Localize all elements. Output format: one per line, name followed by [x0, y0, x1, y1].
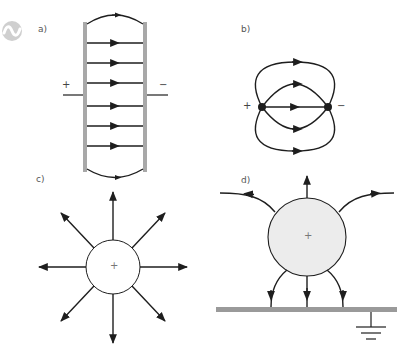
panel-c-label: c) [36, 174, 44, 184]
panel-c-center-sign: + [110, 261, 118, 271]
panel-a-capacitor [63, 15, 168, 178]
panel-d-center-sign: + [304, 231, 312, 241]
panel-a-positive-sign: + [62, 80, 70, 90]
negative-plate [143, 22, 147, 172]
panel-a-label: a) [38, 24, 47, 34]
positive-plate [83, 22, 87, 172]
field-lines-figure: a) + − b) + − c) + d) + [0, 0, 404, 351]
panel-b-dipole [255, 62, 334, 151]
panel-d-label: d) [241, 175, 250, 185]
wave-circle-logo-icon [2, 21, 22, 41]
panel-a-negative-sign: − [159, 80, 167, 90]
ground-plane [216, 307, 397, 312]
panel-b-label: b) [241, 24, 250, 34]
panel-b-negative-sign: − [337, 101, 345, 111]
positive-charge-dot [258, 103, 266, 111]
panel-b-positive-sign: + [243, 101, 251, 111]
earth-ground-icon [356, 312, 386, 339]
panel-d-grounded-plane [216, 176, 397, 339]
negative-charge-dot [324, 103, 332, 111]
